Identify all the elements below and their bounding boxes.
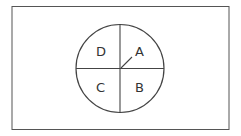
quadrant-label-b: B	[135, 80, 144, 95]
quadrant-label-a: A	[135, 44, 144, 59]
pointer-line	[121, 57, 132, 68]
diagram: A B C D	[0, 0, 241, 136]
quadrant-label-c: C	[96, 80, 105, 95]
quadrant-label-d: D	[96, 44, 106, 59]
